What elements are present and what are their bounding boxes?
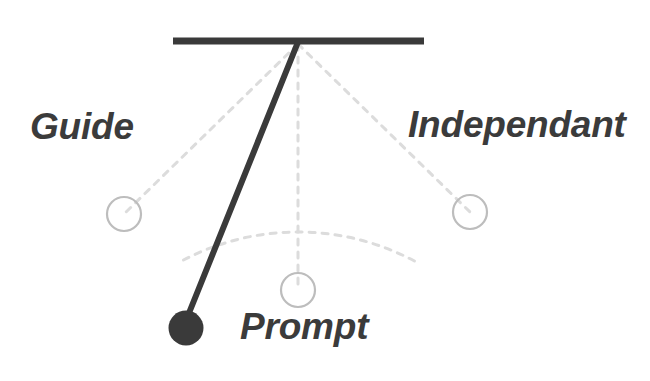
label-guide: Guide bbox=[30, 108, 134, 145]
label-independant: Independant bbox=[408, 106, 626, 143]
radial-line-guide bbox=[124, 44, 298, 214]
pendulum-diagram-canvas: Guide Independant Prompt bbox=[0, 0, 650, 381]
pendulum-rod bbox=[187, 42, 298, 318]
pendulum-bob bbox=[169, 311, 204, 346]
label-prompt: Prompt bbox=[240, 308, 368, 345]
